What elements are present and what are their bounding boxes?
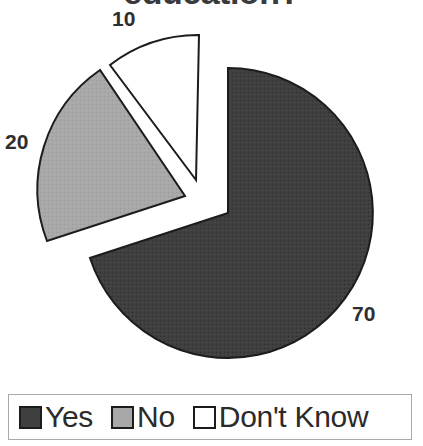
legend-swatch-yes — [19, 406, 42, 429]
pie-chart-svg — [0, 0, 423, 388]
legend-item-yes[interactable]: Yes — [19, 402, 93, 432]
chart-legend: Yes No Don't Know — [8, 394, 412, 440]
legend-swatch-no — [111, 406, 134, 429]
pie-value-label-no: 20 — [5, 130, 28, 154]
pie-value-label-yes: 70 — [352, 302, 375, 326]
legend-label-no: No — [137, 402, 175, 432]
legend-swatch-dont-know — [193, 406, 216, 429]
pie-chart-plot: 10 20 70 — [0, 0, 423, 388]
legend-item-no[interactable]: No — [111, 402, 175, 432]
pie-value-label-dont-know: 10 — [112, 7, 135, 31]
legend-label-dont-know: Don't Know — [219, 402, 368, 432]
legend-item-dont-know[interactable]: Don't Know — [193, 402, 368, 432]
legend-label-yes: Yes — [45, 402, 93, 432]
